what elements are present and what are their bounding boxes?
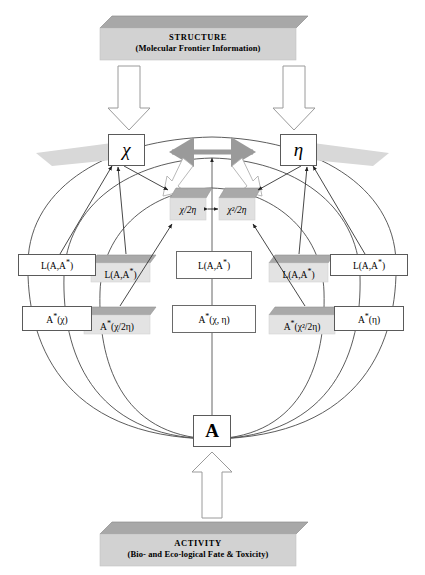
block-arrow-down-right: [273, 66, 315, 130]
block-arrow-down-left: [108, 66, 150, 130]
descriptor-l-inner-right[interactable]: L(A,A*): [269, 263, 328, 282]
descriptor-a-inner-right[interactable]: A*(χ²/2η): [269, 315, 335, 334]
node-eta-label: η: [294, 139, 303, 161]
descriptor-a-outer-left[interactable]: A*(χ): [22, 306, 92, 331]
banner-structure-subtitle: (Molecular Frontier Information): [100, 43, 296, 54]
descriptor-l-outer-left-label: L(A,A*): [41, 258, 73, 271]
banner-activity-subtitle: (Bio- and Eco-logical Fate & Toxicity): [100, 549, 296, 560]
descriptor-l-outer-right[interactable]: L(A,A*): [330, 254, 408, 276]
node-chi2-over-2eta[interactable]: χ²/2η: [219, 198, 255, 220]
descriptor-a-outer-left-label: A*(χ): [46, 312, 67, 325]
descriptor-l-center-label: L(A,A*): [198, 258, 230, 271]
block-arrow-up: [192, 452, 232, 518]
descriptor-a-inner-left-label: A*(χ/2η): [100, 319, 134, 332]
shadow-wedge-right: [313, 143, 389, 166]
descriptor-l-inner-left-label: L(A,A*): [104, 267, 136, 280]
descriptor-a-outer-right[interactable]: A*(η): [334, 306, 404, 331]
descriptor-l-inner-right-label: L(A,A*): [282, 267, 314, 280]
descriptor-l-outer-right-label: L(A,A*): [353, 258, 385, 271]
diagram-canvas: STRUCTURE (Molecular Frontier Informatio…: [0, 0, 425, 575]
node-chi-label: χ: [122, 139, 130, 161]
node-chi-over-2eta[interactable]: χ/2η: [170, 198, 206, 220]
node-activity-a[interactable]: A: [193, 415, 231, 447]
banner-structure: STRUCTURE (Molecular Frontier Informatio…: [100, 32, 296, 53]
descriptor-a-outer-right-label: A*(η): [358, 312, 380, 325]
descriptor-l-inner-left[interactable]: L(A,A*): [91, 263, 150, 282]
descriptor-a-center-label: A*(χ, η): [198, 312, 229, 325]
descriptor-a-inner-left[interactable]: A*(χ/2η): [84, 315, 150, 334]
descriptor-a-center[interactable]: A*(χ, η): [172, 305, 256, 333]
diagram-vector-layer: [0, 0, 425, 575]
node-chi2-over-2eta-label: χ²/2η: [227, 205, 246, 215]
connector-lines: [60, 166, 365, 306]
shadow-wedge-left: [36, 143, 112, 166]
node-chi-over-2eta-label: χ/2η: [180, 205, 196, 215]
node-eta[interactable]: η: [280, 134, 317, 166]
banner-structure-title: STRUCTURE: [100, 32, 296, 43]
node-activity-a-label: A: [205, 420, 219, 442]
descriptor-l-outer-left[interactable]: L(A,A*): [18, 254, 96, 276]
banner-activity-title: ACTIVITY: [100, 538, 296, 549]
descriptor-l-center[interactable]: L(A,A*): [176, 251, 252, 279]
node-chi[interactable]: χ: [108, 134, 145, 166]
descriptor-a-inner-right-label: A*(χ²/2η): [284, 319, 321, 332]
banner-activity: ACTIVITY (Bio- and Eco-logical Fate & To…: [100, 538, 296, 559]
